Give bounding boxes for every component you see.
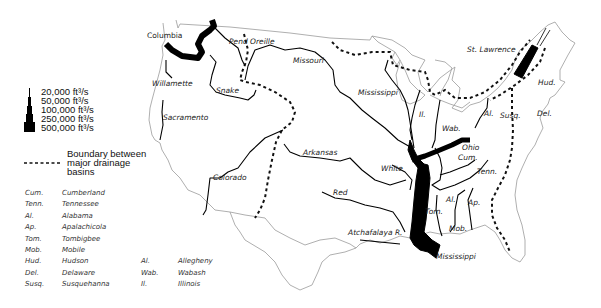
abbr-susq: Susq. <box>25 279 44 290</box>
abbr-del: Del. <box>25 268 39 279</box>
abbr-tom: Tom. <box>25 234 42 245</box>
label-il: Il. <box>419 110 426 119</box>
river-labels: Columbia Pend Oreille Missouri Willamett… <box>147 31 556 261</box>
label-susq: Susq. <box>500 111 521 120</box>
label-pend-oreille: Pend Oreille <box>229 37 275 46</box>
label-red: Red <box>333 188 348 197</box>
abbr-hud: Hud. <box>25 256 41 267</box>
pend-oreille-river <box>215 28 245 66</box>
abbr-wabash-name: Wabash <box>178 268 206 279</box>
label-sacramento: Sacramento <box>163 113 209 122</box>
label-wab: Wab. <box>442 124 461 133</box>
st-lawrence-river <box>514 45 538 78</box>
label-willamette: Willamette <box>152 79 193 88</box>
abbr-tenn-name: Tennessee <box>62 199 99 210</box>
label-cum: Cum. <box>458 153 478 162</box>
wabash-river <box>432 100 440 148</box>
abbr-cum-name: Cumberland <box>62 188 105 199</box>
rivers-thick <box>166 20 550 258</box>
label-missouri: Missouri <box>293 56 325 65</box>
abbr-susq-name: Susquehanna <box>62 279 110 290</box>
label-white: White <box>381 164 403 173</box>
cumberland-river <box>440 160 475 175</box>
label-ap: Ap. <box>467 198 480 207</box>
label-ohio: Ohio <box>462 143 480 152</box>
label-hud: Hud. <box>538 78 556 87</box>
abbr-cum: Cum. <box>25 188 43 199</box>
flow-label-500000: 500,000 ft³/s <box>41 122 94 133</box>
abbr-allegheny: Al. <box>141 256 150 267</box>
abbr-allegheny-name: Allegheny <box>178 256 213 267</box>
label-del: Del. <box>537 109 552 118</box>
abbr-del-name: Delaware <box>62 268 95 279</box>
us-river-flow-map: 20,000 ft³/s 50,000 ft³/s 100,000 ft³/s … <box>0 0 601 308</box>
label-arkansas: Arkansas <box>302 148 337 157</box>
label-mississippi-mouth: Mississippi <box>436 252 477 261</box>
label-columbia: Columbia <box>147 31 182 40</box>
label-allegheny: Al. <box>483 109 494 118</box>
abbr-illinois: Il. <box>141 279 147 290</box>
abbr-al: Al. <box>25 211 34 222</box>
abbr-ap-name: Apalachicola <box>62 222 106 233</box>
label-mississippi-upper: Mississippi <box>358 88 399 97</box>
label-tom: Tom. <box>425 207 443 216</box>
abbr-illinois-name: Illinois <box>178 279 200 290</box>
red-river <box>322 192 405 232</box>
label-st-lawrence: St. Lawrence <box>467 45 516 54</box>
label-tenn: Tenn. <box>477 167 497 176</box>
abbr-wabash: Wab. <box>141 268 159 279</box>
abbr-tenn: Tenn. <box>25 199 44 210</box>
label-snake: Snake <box>216 86 239 95</box>
label-atchafalaya: Atchafalaya R. <box>347 228 402 237</box>
basin-boundaries <box>240 34 545 252</box>
abbr-tom-name: Tombigbee <box>62 234 100 245</box>
apalachicola-river <box>468 188 473 230</box>
label-colorado: Colorado <box>213 173 247 182</box>
label-mob: Mob. <box>449 224 467 233</box>
abbr-mob-name: Mobile <box>62 245 85 256</box>
abbr-al-name: Alabama <box>62 211 93 222</box>
label-alabama: Al. <box>445 195 456 204</box>
flow-scale-symbol <box>24 88 35 132</box>
boundary-legend-line3: basins <box>67 166 95 177</box>
willamette-river <box>166 60 172 78</box>
abbr-mob: Mob. <box>25 245 42 256</box>
abbr-ap: Ap. <box>25 222 36 233</box>
abbr-hud-name: Hudson <box>62 256 89 267</box>
